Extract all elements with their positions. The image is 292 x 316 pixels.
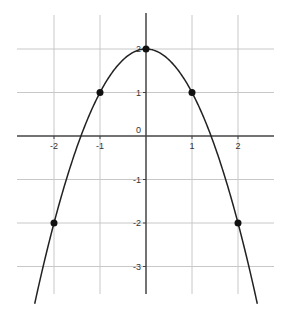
data-point [51, 220, 58, 227]
data-point [189, 89, 196, 96]
function-plot: -2-112-3-2-1120 [0, 0, 292, 316]
x-tick-label: 2 [235, 141, 240, 151]
x-tick-label: -2 [50, 141, 58, 151]
axes [17, 13, 274, 294]
data-point [143, 46, 150, 53]
y-tick-label: -1 [133, 175, 141, 185]
data-point [235, 220, 242, 227]
y-tick-label: 1 [136, 88, 141, 98]
x-tick-label: 1 [189, 141, 194, 151]
data-point [97, 89, 104, 96]
x-tick-label: -1 [96, 141, 104, 151]
y-tick-label: -3 [133, 262, 141, 272]
y-tick-label: -2 [133, 218, 141, 228]
origin-label: 0 [136, 125, 141, 135]
